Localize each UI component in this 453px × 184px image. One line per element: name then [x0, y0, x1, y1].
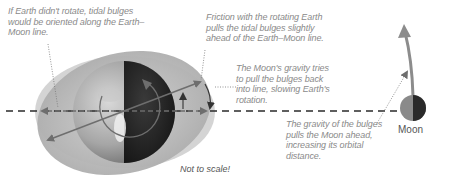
note-friction: Friction with the rotating Earth pulls t… [206, 12, 324, 44]
leader-friction [201, 50, 205, 80]
moon-label: Moon [398, 124, 423, 135]
note-moon-gravity: The Moon's gravity tries to pull the bul… [236, 63, 336, 105]
not-to-scale-note: Not to scale! [180, 164, 230, 174]
note-bulge-gravity: The gravity of the bulges pulls the Moon… [286, 119, 398, 161]
note-no-rotation: If Earth didn't rotate, tidal bulges wou… [8, 6, 148, 38]
moon-orbit-arrowhead-icon [398, 24, 411, 38]
leader-bulge-gravity [376, 72, 407, 125]
moon-orbit-arrow [405, 32, 413, 96]
moon [400, 95, 426, 121]
